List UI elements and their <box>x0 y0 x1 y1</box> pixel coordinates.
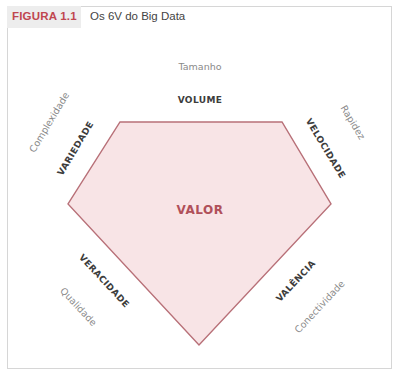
meaning-complexidade: Complexidade <box>27 90 72 154</box>
label-volume: VOLUME <box>178 95 223 105</box>
six-v-diagram: VALOR Tamanho VOLUME VELOCIDADE Rapidez … <box>0 0 398 376</box>
meaning-conectividade: Conectividade <box>292 278 346 335</box>
center-label-valor: VALOR <box>177 203 224 217</box>
valor-pentagon <box>68 122 331 345</box>
meaning-rapidez: Rapidez <box>339 103 368 141</box>
label-variedade: VARIEDADE <box>55 120 95 178</box>
meaning-tamanho: Tamanho <box>178 61 222 72</box>
meaning-qualidade: Qualidade <box>58 285 99 328</box>
label-valencia: VALÊNCIA <box>273 258 317 304</box>
